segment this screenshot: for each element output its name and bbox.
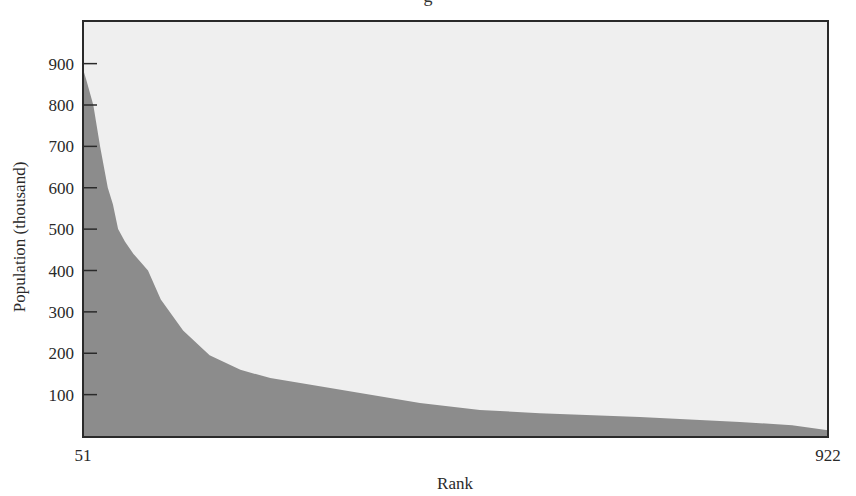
y-tick-label: 200 (49, 344, 75, 363)
x-tick-label-end: 922 (815, 446, 841, 465)
x-axis-title: Rank (437, 474, 473, 493)
y-tick-label: 100 (49, 386, 75, 405)
y-tick-label: 700 (49, 137, 75, 156)
x-tick-label-start: 51 (75, 446, 92, 465)
plot-area (83, 21, 828, 437)
y-tick-label: 400 (49, 262, 75, 281)
y-tick-label: 800 (49, 96, 75, 115)
y-tick-label: 600 (49, 179, 75, 198)
y-axis-tick-labels: 100200300400500600700800900 (49, 55, 75, 405)
y-tick-label: 500 (49, 220, 75, 239)
chart: 100200300400500600700800900 51 922 Rank … (0, 0, 856, 496)
y-axis-title: Population (thousand) (10, 162, 29, 313)
y-tick-label: 300 (49, 303, 75, 322)
y-tick-label: 900 (49, 55, 75, 74)
